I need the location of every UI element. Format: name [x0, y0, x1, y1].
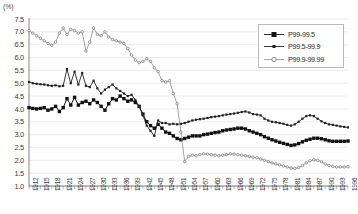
x-axis-tick-label: 1972	[259, 178, 266, 191]
y-axis-tick-label: 6.5	[0, 40, 24, 49]
x-axis-tick-label: 1984	[305, 178, 312, 191]
x-axis-tick-label: 1945	[157, 178, 164, 191]
legend-item-1: P99.5-99.9	[263, 41, 339, 54]
x-axis-tick-label: 1924	[77, 178, 84, 191]
x-axis-tick-label: 1921	[66, 178, 73, 191]
x-axis-tick-label: 1930	[100, 178, 107, 191]
y-axis-tick-label: 3.5	[0, 117, 24, 126]
x-axis-tick-label: 1927	[89, 178, 96, 191]
x-axis-tick-label: 1993	[339, 178, 346, 191]
x-axis-tick-label: 1939	[134, 178, 141, 191]
x-axis-tick-label: 1960	[214, 178, 221, 191]
x-axis-tick-label: 1990	[328, 178, 335, 191]
x-axis-tick-label: 1912	[32, 178, 39, 191]
x-axis-tick-label: 1936	[123, 178, 130, 191]
legend-label-1: P99.5-99.9	[288, 42, 320, 51]
y-axis-tick-label: 1.5	[0, 169, 24, 178]
legend-item-0: P99-99.5	[263, 28, 339, 41]
x-axis-tick-label: 1966	[237, 178, 244, 191]
y-axis-tick-label: 5.5	[0, 66, 24, 75]
y-axis-tick-label: 7.5	[0, 15, 24, 24]
y-axis-tick-label: 7.0	[0, 27, 24, 36]
y-axis-tick-label: 2.5	[0, 143, 24, 152]
x-axis-tick-label: 1975	[271, 178, 278, 191]
x-axis-tick-label: 1981	[294, 178, 301, 191]
y-axis-tick-label: 5.0	[0, 79, 24, 88]
y-axis-tick-label: 2.0	[0, 156, 24, 165]
legend-label-0: P99-99.5	[288, 30, 315, 39]
y-axis-tick-label: 4.5	[0, 92, 24, 101]
y-axis-tick-label: 3.0	[0, 130, 24, 139]
x-axis-tick-label: 1957	[202, 178, 209, 191]
y-axis-tick-label: 4.0	[0, 105, 24, 114]
chart-legend: P99-99.5 P99.5-99.9 P99.9-99.99	[258, 24, 344, 68]
legend-symbol-small-dot	[263, 42, 285, 51]
x-axis-tick-label: 1954	[191, 178, 198, 191]
y-axis-tick-label: 1.0	[0, 182, 24, 191]
x-axis-tick-label: 1942	[146, 178, 153, 191]
x-axis-tick-label: 1933	[111, 178, 118, 191]
x-axis-tick-label: 1951	[180, 178, 187, 191]
y-axis-tick-label: 6.0	[0, 53, 24, 62]
x-axis-tick-label: 1969	[248, 178, 255, 191]
legend-item-2: P99.9-99.99	[263, 53, 339, 66]
x-axis-tick-label: 1963	[225, 178, 232, 191]
x-axis-tick-label: 1996	[351, 178, 358, 191]
x-axis-tick-label: 1918	[54, 178, 61, 191]
x-axis-tick-label: 1987	[316, 178, 323, 191]
x-axis-tick-label: 1978	[282, 178, 289, 191]
x-axis-tick-label: 1915	[43, 178, 50, 191]
legend-label-2: P99.9-99.99	[288, 55, 324, 64]
legend-symbol-open-circle	[263, 55, 285, 64]
x-axis-tick-label: 1948	[168, 178, 175, 191]
legend-symbol-filled-square	[263, 30, 285, 39]
